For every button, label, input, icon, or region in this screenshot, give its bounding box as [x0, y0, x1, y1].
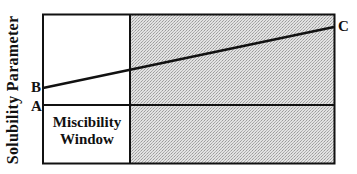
solubility-diagram: Solubility Parameter B A C Miscibility W… [0, 0, 357, 174]
point-label-c: C [338, 18, 349, 35]
point-label-b: B [31, 79, 41, 96]
miscibility-window-label: Miscibility Window [44, 114, 130, 148]
y-axis-label-text: Solubility Parameter [4, 16, 22, 165]
region-label-line2: Window [44, 131, 130, 148]
y-axis-label: Solubility Parameter [2, 14, 24, 166]
shaded-region [130, 15, 334, 163]
region-label-line1: Miscibility [44, 114, 130, 131]
point-label-a: A [31, 98, 42, 115]
